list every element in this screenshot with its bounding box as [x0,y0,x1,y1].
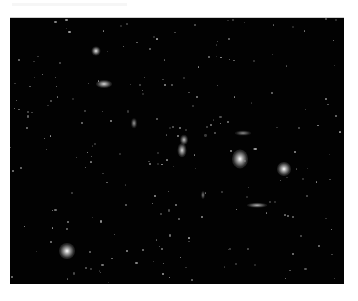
background-star [173,166,174,167]
background-star [196,96,198,98]
background-star [292,216,294,218]
background-star [85,267,87,269]
background-star [68,31,70,33]
background-star [169,277,170,278]
background-star [101,264,103,266]
background-star [50,135,51,136]
background-star [149,48,151,50]
background-star [67,278,68,279]
background-star [166,159,167,160]
background-star [192,105,194,107]
background-star [329,154,331,156]
background-star [178,218,180,220]
background-star [334,65,335,66]
background-star [213,119,214,120]
background-star [71,192,73,194]
background-star [119,153,121,155]
background-star [14,83,15,84]
background-star [144,77,145,78]
background-star [50,241,52,243]
background-star [91,156,92,157]
background-star [130,84,131,85]
background-star [26,127,28,129]
galaxy-bright-center [232,149,248,168]
background-star [227,121,229,123]
background-star [107,51,108,52]
background-star [325,18,326,19]
background-star [11,276,12,277]
background-star [10,147,11,148]
background-star [273,24,274,25]
background-star [168,209,170,211]
background-star [142,249,144,251]
background-star [285,278,286,279]
background-star [230,150,232,152]
background-star [307,168,308,169]
background-star [229,59,230,60]
background-star [94,143,96,145]
background-star [168,191,169,192]
background-star [55,77,56,78]
background-star [208,56,210,58]
background-star [232,19,234,21]
background-star [304,268,306,270]
background-star [296,168,297,169]
background-star [294,151,296,153]
background-star [111,258,113,260]
background-star [234,96,235,97]
background-star [335,19,337,21]
background-star [266,212,267,213]
background-star [300,235,302,237]
background-star [287,215,289,217]
background-star [229,248,231,250]
background-star [103,30,105,32]
background-star [54,21,56,23]
background-star [172,126,174,128]
background-star [274,201,276,203]
background-star [20,167,22,169]
background-star [220,57,222,59]
background-star [244,22,245,23]
background-star [317,125,319,127]
background-star [73,272,75,274]
background-star [236,209,237,210]
background-star [216,56,217,57]
bright-star-lower-left [59,243,75,259]
background-star [76,157,77,158]
background-star [157,152,159,154]
background-star [204,134,206,136]
background-star [228,38,229,39]
background-star [248,187,249,188]
background-star [327,104,329,106]
background-star [85,167,86,168]
background-star [102,111,103,112]
background-star [280,180,281,181]
background-star [179,127,181,129]
galaxy-pair-b [178,143,187,157]
background-star [56,86,57,87]
background-star [27,115,29,117]
background-star [166,134,167,135]
background-star [110,120,112,122]
background-star [12,170,14,172]
galaxy-bright-right [277,162,291,176]
background-star [157,163,159,165]
background-star [246,196,248,198]
background-star [72,98,74,100]
background-star [335,115,337,117]
background-star [125,204,127,206]
background-star [191,279,193,281]
background-star [253,60,255,62]
background-star [126,23,128,25]
background-star [92,145,93,146]
background-star [14,108,15,109]
background-star [84,110,85,111]
background-star [65,19,67,21]
background-star [162,79,164,81]
top-bar [12,3,127,6]
background-star [217,85,218,86]
background-star [220,123,221,124]
background-star [286,65,288,67]
background-star [318,245,320,247]
galaxy-elongated-top [235,131,251,136]
